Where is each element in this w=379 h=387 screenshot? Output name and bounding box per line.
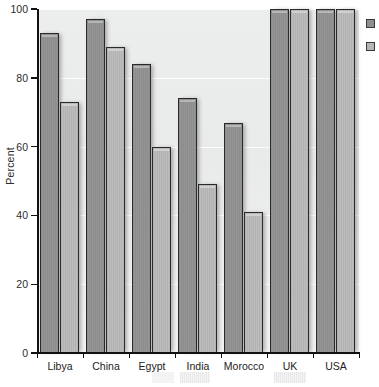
x-axis-label-india: India [175,360,221,372]
bar-highlight [62,104,77,106]
x-axis-line [36,352,360,354]
bar-highlight [338,11,353,13]
chart-legend [366,18,379,64]
x-axis-label-morocco: Morocco [221,360,267,372]
bar-india-series-2[interactable] [198,184,217,353]
bar-highlight [318,11,333,13]
caption-artifact [152,372,174,383]
bar-highlight [134,66,149,68]
y-axis-tick-label: 20 [0,279,28,289]
x-axis-tick [221,352,222,358]
x-axis-tick [83,352,84,358]
bar-libya-series-1[interactable] [40,33,59,353]
bar-highlight [246,214,261,216]
bar-chart: 020406080100 Percent LibyaChinaEgyptIndi… [0,0,379,387]
x-axis-tick [175,352,176,358]
y-axis-tick [31,8,37,10]
bar-india-series-1[interactable] [178,98,197,353]
x-axis-label-uk: UK [267,360,313,372]
y-axis-tick-label: 0 [0,348,28,358]
bar-highlight [200,186,215,188]
bar-morocco-series-2[interactable] [244,212,263,353]
caption-artifact [180,372,210,383]
y-axis-tick-label: 100 [0,4,28,14]
y-axis-tick [31,77,37,79]
legend-swatch-series-1 [366,19,375,28]
y-axis-title: Percent [4,136,16,196]
x-axis-label-usa: USA [313,360,359,372]
legend-item[interactable] [366,41,379,52]
x-axis-tick [359,352,360,358]
caption-artifact [274,372,306,383]
y-axis-tick [31,146,37,148]
y-axis-line [37,9,39,354]
bar-uk-series-1[interactable] [270,9,289,353]
bar-china-series-2[interactable] [106,47,125,353]
bar-morocco-series-1[interactable] [224,123,243,354]
y-axis-tick-label: 80 [0,73,28,83]
bar-china-series-1[interactable] [86,19,105,353]
bar-highlight [272,11,287,13]
bar-libya-series-2[interactable] [60,102,79,353]
bar-highlight [42,35,57,37]
bar-highlight [292,11,307,13]
bar-highlight [180,100,195,102]
bar-egypt-series-2[interactable] [152,147,171,353]
legend-swatch-series-2 [366,42,375,51]
bar-usa-series-1[interactable] [316,9,335,353]
y-axis-tick-label: 40 [0,210,28,220]
y-axis-tick [31,215,37,217]
bar-egypt-series-1[interactable] [132,64,151,353]
plot-area [37,9,359,353]
x-axis-label-china: China [83,360,129,372]
legend-item[interactable] [366,18,379,29]
bar-highlight [226,125,241,127]
bars-layer [37,9,359,353]
bar-highlight [154,149,169,151]
x-axis-tick [267,352,268,358]
x-axis-tick [37,352,38,358]
y-axis-tick [31,284,37,286]
bar-uk-series-2[interactable] [290,9,309,353]
bar-highlight [88,21,103,23]
bar-highlight [108,49,123,51]
bar-usa-series-2[interactable] [336,9,355,353]
x-axis-label-libya: Libya [37,360,83,372]
x-axis-label-egypt: Egypt [129,360,175,372]
x-axis-tick [129,352,130,358]
x-axis-tick [313,352,314,358]
